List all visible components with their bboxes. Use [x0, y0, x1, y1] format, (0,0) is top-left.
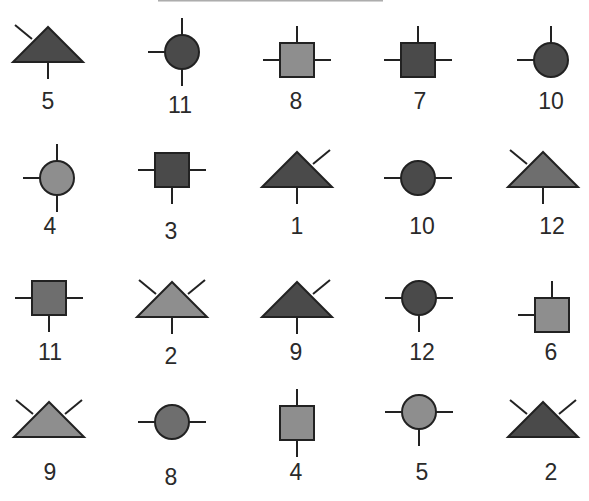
glyph-number-label: 12 — [522, 215, 582, 238]
stem-line — [559, 400, 576, 414]
glyph-triangle — [262, 150, 332, 204]
glyph-triangle — [13, 25, 83, 79]
glyph-number-label: 11 — [150, 94, 210, 117]
glyph-square — [280, 389, 314, 457]
circle-shape — [402, 395, 436, 429]
stem-line — [313, 150, 330, 164]
square-shape — [280, 406, 314, 440]
circle-shape — [401, 161, 435, 195]
glyph-triangle — [14, 400, 84, 437]
glyph-number-label: 2 — [141, 345, 201, 368]
glyph-square — [263, 26, 331, 77]
glyph-circle — [148, 18, 199, 86]
glyph-number-label: 1 — [267, 215, 327, 238]
glyph-triangle — [137, 280, 207, 334]
glyph-square — [15, 281, 83, 332]
glyph-circle — [384, 161, 452, 195]
glyph-number-label: 8 — [266, 90, 326, 113]
glyph-number-label: 7 — [390, 90, 450, 113]
glyph-square — [384, 26, 452, 77]
glyph-circle — [138, 405, 206, 439]
square-shape — [32, 281, 66, 315]
stem-line — [188, 280, 205, 294]
circle-shape — [402, 281, 436, 315]
glyph-number-label: 8 — [141, 466, 201, 489]
glyph-number-label: 5 — [18, 90, 78, 113]
square-shape — [280, 43, 314, 77]
glyph-number-label: 9 — [266, 341, 326, 364]
glyph-circle — [23, 144, 74, 212]
square-shape — [155, 153, 189, 187]
glyph-number-label: 10 — [521, 90, 581, 113]
stem-line — [139, 280, 156, 294]
glyph-number-label: 4 — [266, 461, 326, 484]
glyph-number-label: 5 — [392, 461, 452, 484]
stem-line — [15, 25, 32, 39]
stem-line — [313, 280, 330, 294]
glyph-triangle — [508, 150, 578, 204]
glyph-number-label: 3 — [141, 220, 201, 243]
circle-shape — [534, 43, 568, 77]
glyph-triangle — [508, 400, 578, 437]
stem-line — [65, 400, 82, 414]
glyph-number-label: 6 — [521, 341, 581, 364]
glyph-circle — [517, 26, 568, 77]
glyph-number-label: 10 — [392, 215, 452, 238]
stem-line — [510, 400, 527, 414]
glyph-canvas — [0, 0, 589, 501]
glyph-circle — [385, 281, 453, 332]
glyph-number-label: 2 — [521, 461, 581, 484]
glyph-triangle — [262, 280, 332, 334]
circle-shape — [155, 405, 189, 439]
glyph-number-label: 9 — [20, 461, 80, 484]
glyph-circle — [385, 395, 453, 446]
circle-shape — [40, 161, 74, 195]
glyph-number-label: 12 — [392, 341, 452, 364]
square-shape — [535, 298, 569, 332]
glyph-square — [138, 153, 206, 204]
stem-line — [16, 400, 33, 414]
glyph-number-label: 4 — [20, 215, 80, 238]
stem-line — [510, 150, 527, 164]
glyph-number-label: 11 — [20, 341, 80, 364]
glyph-square — [518, 281, 569, 332]
square-shape — [401, 43, 435, 77]
circle-shape — [165, 35, 199, 69]
